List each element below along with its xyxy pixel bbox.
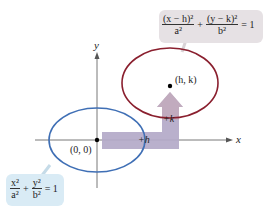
center-point [168,84,172,88]
standard-term1: x² a² [10,177,20,200]
standard-equation: x² a² + y² b² = 1 [10,177,58,200]
vertical-shift-label: +k [163,113,174,124]
origin-label: (0, 0) [70,144,92,155]
horizontal-shift-label: +h [138,134,150,145]
center-label: (h, k) [175,74,197,85]
x-axis-arrow-icon [226,138,233,143]
translated-equation: (x − h)² a² + (y − k)² b² = 1 [162,13,254,36]
x-axis-label: x [236,133,241,145]
translated-term1: (x − h)² a² [162,13,194,36]
standard-term2: y² b² [32,177,42,200]
y-axis-arrow-icon [95,52,100,59]
y-axis-label: y [94,39,99,51]
translated-term2: (y − k)² b² [206,13,238,36]
origin-point [95,138,99,142]
